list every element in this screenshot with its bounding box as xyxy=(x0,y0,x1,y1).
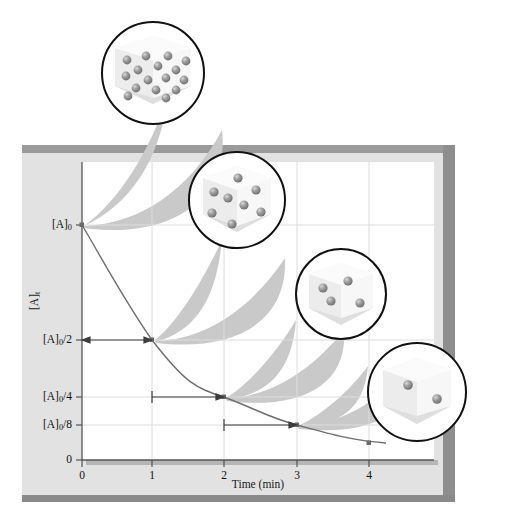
figure-root: [A]0 [A]0/2 [A]0/4 [A]0/8 0 0 1 2 3 4 Ti… xyxy=(0,0,511,526)
y-axis-title: [A]t xyxy=(28,292,40,310)
y-tick-label-A0: [A]0 xyxy=(18,219,72,231)
inset-cube-2 xyxy=(368,343,466,441)
y-tick-label-A0-eighth: [A]0/8 xyxy=(10,419,72,431)
inset-layer xyxy=(0,0,511,526)
inset-cube-4 xyxy=(296,249,386,339)
x-tick-label-0: 0 xyxy=(79,470,85,482)
x-tick-label-2: 2 xyxy=(221,470,227,482)
x-tick-label-3: 3 xyxy=(294,470,300,482)
inset-cube-16 xyxy=(102,22,204,124)
y-tick-label-A0-quarter: [A]0/4 xyxy=(10,391,72,403)
x-tick-label-4: 4 xyxy=(366,470,372,482)
inset-cube-8 xyxy=(189,152,285,248)
y-tick-label-zero: 0 xyxy=(10,454,72,466)
y-tick-label-A0-half: [A]0/2 xyxy=(10,334,72,346)
x-axis-title: Time (min) xyxy=(232,478,284,490)
x-tick-label-1: 1 xyxy=(149,470,155,482)
